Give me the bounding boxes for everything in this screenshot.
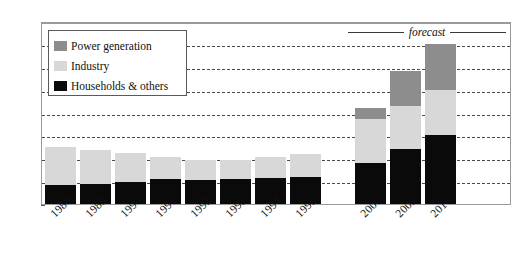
bar-segment (220, 160, 251, 179)
legend-item[interactable]: Industry (54, 56, 186, 76)
y-axis-tick-mark (41, 205, 45, 206)
bar-segment (425, 90, 456, 136)
bar-1988[interactable] (45, 147, 76, 204)
legend-label: Industry (71, 60, 109, 72)
bar-segment (425, 44, 456, 90)
gridline (42, 23, 510, 24)
bar-segment (80, 150, 111, 185)
legend-swatch-icon (54, 81, 67, 91)
legend-item[interactable]: Power generation (54, 36, 186, 56)
legend-swatch-icon (54, 41, 67, 51)
bar-segment (390, 106, 421, 149)
bar-segment (150, 157, 181, 179)
forecast-label: forecast (409, 26, 446, 38)
chart-canvas: 0510152025303540 19881989199019911992199… (0, 0, 526, 257)
bar-segment (425, 135, 456, 204)
bar-segment (115, 153, 146, 182)
forecast-annotation: forecast (348, 25, 506, 39)
bar-segment (390, 149, 421, 204)
bar-2005[interactable] (390, 71, 421, 204)
bar-2010[interactable] (425, 44, 456, 204)
legend-label: Power generation (71, 40, 152, 52)
legend-label: Households & others (71, 80, 168, 92)
bar-segment (355, 108, 386, 119)
legend-item[interactable]: Households & others (54, 76, 186, 96)
bar-segment (290, 154, 321, 177)
bar-segment (255, 157, 286, 178)
bar-segment (355, 119, 386, 162)
bar-segment (390, 71, 421, 105)
legend-swatch-icon (54, 61, 67, 71)
forecast-rule-right (450, 32, 506, 33)
bar-segment (185, 160, 216, 180)
bar-1989[interactable] (80, 150, 111, 204)
forecast-rule-left (348, 32, 404, 33)
bar-1990[interactable] (115, 153, 146, 204)
bar-2000[interactable] (355, 108, 386, 204)
y-axis: 0510152025303540 (0, 0, 41, 257)
bar-segment (45, 147, 76, 185)
chart-legend: Power generationIndustryHouseholds & oth… (48, 30, 187, 96)
bar-1995[interactable] (290, 154, 321, 204)
